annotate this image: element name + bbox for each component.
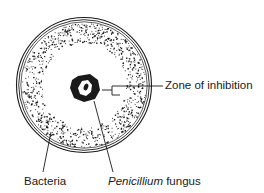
fungus-word: fungus bbox=[163, 175, 201, 187]
penicillium-fungus bbox=[70, 74, 100, 102]
penicillium-fungus-label: Penicillium fungus bbox=[108, 176, 201, 188]
fungus-leader-line bbox=[94, 101, 113, 172]
penicillium-name: Penicillium bbox=[108, 175, 163, 187]
bacteria-leader-line bbox=[43, 132, 51, 172]
petri-dish-diagram bbox=[0, 0, 264, 193]
zone-of-inhibition-label: Zone of inhibition bbox=[165, 80, 253, 92]
bacteria-label: Bacteria bbox=[24, 176, 66, 188]
zone-leader-line bbox=[102, 86, 163, 95]
